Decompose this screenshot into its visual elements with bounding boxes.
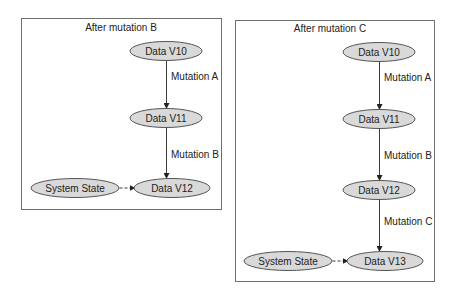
node-label: Data V12 <box>151 183 193 194</box>
node-system-state: System State <box>244 252 332 271</box>
node-data-v11: Data V11 <box>130 109 202 128</box>
node-data-v10: Data V10 <box>343 43 415 62</box>
edge-label: Mutation A <box>384 72 432 83</box>
diagram-title: After mutation B <box>85 22 157 33</box>
node-label: Data V12 <box>358 185 400 196</box>
node-label: Data V11 <box>359 114 400 125</box>
diagram-canvas: After mutation B Mutation AMutation B Da… <box>0 0 457 290</box>
edge-label: Mutation C <box>384 216 432 227</box>
edge-label: Mutation B <box>171 149 219 160</box>
node-data-v13: Data V13 <box>347 252 423 271</box>
node-system-state: System State <box>31 179 119 198</box>
diagram-after-mutation-c: After mutation C Mutation AMutation BMut… <box>236 21 435 282</box>
node-data-v11: Data V11 <box>343 110 415 129</box>
node-label: Data V11 <box>146 113 187 124</box>
diagram-after-mutation-b: After mutation B Mutation AMutation B Da… <box>22 19 222 210</box>
node-label: System State <box>258 256 318 267</box>
node-label: System State <box>45 183 105 194</box>
node-data-v12: Data V12 <box>134 179 210 198</box>
node-label: Data V10 <box>145 46 187 57</box>
node-data-v12: Data V12 <box>343 181 415 200</box>
diagram-title: After mutation C <box>294 23 366 34</box>
node-label: Data V13 <box>364 256 406 267</box>
node-label: Data V10 <box>358 47 400 58</box>
edge-label: Mutation A <box>171 71 219 82</box>
edge-label: Mutation B <box>384 150 432 161</box>
node-data-v10: Data V10 <box>130 42 202 61</box>
